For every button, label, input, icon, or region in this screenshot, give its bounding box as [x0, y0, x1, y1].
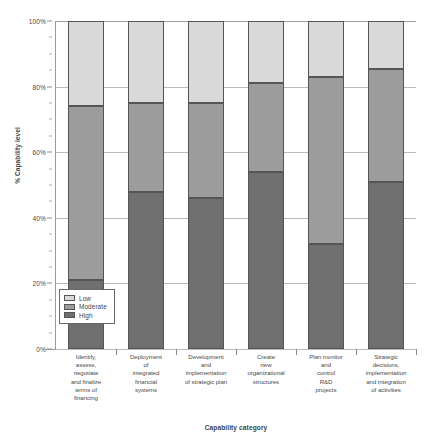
y-tick-minor-50: [49, 185, 52, 186]
x-axis-category-labels: Identify,assess,negotiateand finalizeter…: [56, 353, 416, 423]
y-tick-minor-75: [49, 103, 52, 104]
y-tick-minor-85: [49, 70, 52, 71]
x-category-label-line: financing: [51, 394, 121, 402]
y-tick-minor-95: [49, 37, 52, 38]
x-axis-title: Capability category: [56, 424, 416, 431]
bar-segment-moderate[interactable]: [68, 106, 104, 280]
bar-segment-low[interactable]: [188, 21, 224, 103]
bar-segment-high[interactable]: [308, 244, 344, 349]
y-tick-minor-35: [49, 234, 52, 235]
y-tick-label-40: 40%: [33, 214, 47, 221]
bar-segment-high[interactable]: [188, 198, 224, 349]
bar-column[interactable]: [188, 21, 224, 349]
legend-item[interactable]: High: [64, 312, 107, 319]
y-tick-major-20: [47, 283, 52, 284]
bar-column[interactable]: [308, 21, 344, 349]
legend-label: High: [79, 312, 93, 319]
bar-segment-moderate[interactable]: [248, 83, 284, 172]
y-tick-minor-70: [49, 119, 52, 120]
y-tick-minor-5: [49, 332, 52, 333]
x-category-label-line: systems: [111, 386, 181, 394]
bar-segment-low[interactable]: [68, 21, 104, 106]
y-axis-labels: 0%20%40%60%80%100%: [0, 0, 56, 447]
y-tick-major-100: [47, 21, 52, 22]
y-tick-label-60: 60%: [33, 149, 47, 156]
x-category-label-line: implementation: [351, 369, 421, 377]
y-tick-minor-15: [49, 299, 52, 300]
bar-column[interactable]: [368, 21, 404, 349]
y-tick-minor-25: [49, 267, 52, 268]
y-tick-minor-65: [49, 135, 52, 136]
y-tick-major-80: [47, 86, 52, 87]
bar-segment-low[interactable]: [308, 21, 344, 77]
bar-segment-moderate[interactable]: [128, 103, 164, 192]
bar-segment-moderate[interactable]: [308, 77, 344, 244]
legend: LowModerateHigh: [59, 289, 115, 324]
y-tick-label-0: 0%: [36, 346, 46, 353]
y-tick-label-20: 20%: [33, 280, 47, 287]
legend-swatch-icon: [64, 304, 75, 310]
y-tick-minor-45: [49, 201, 52, 202]
x-category-label-line: decisions,: [351, 361, 421, 369]
legend-swatch-icon: [64, 312, 75, 318]
y-tick-major-60: [47, 152, 52, 153]
y-tick-minor-30: [49, 250, 52, 251]
x-category-label-line: of activities: [351, 386, 421, 394]
y-tick-major-40: [47, 217, 52, 218]
bar-column[interactable]: [248, 21, 284, 349]
bar-segment-high[interactable]: [248, 172, 284, 349]
caption-sliver: [28, 440, 408, 447]
y-tick-minor-55: [49, 168, 52, 169]
legend-item[interactable]: Moderate: [64, 303, 107, 310]
y-tick-minor-10: [49, 316, 52, 317]
y-tick-label-80: 80%: [33, 83, 47, 90]
legend-label: Low: [79, 295, 91, 302]
bar-segment-low[interactable]: [128, 21, 164, 103]
bar-segment-moderate[interactable]: [368, 69, 404, 182]
bar-segment-low[interactable]: [248, 21, 284, 83]
bar-column[interactable]: [128, 21, 164, 349]
x-category-label-line: Strategic: [351, 353, 421, 361]
bar-segment-high[interactable]: [368, 182, 404, 349]
y-tick-minor-90: [49, 53, 52, 54]
bar-segment-moderate[interactable]: [188, 103, 224, 198]
y-tick-label-100: 100%: [29, 18, 46, 25]
x-category-label-line: and integration: [351, 378, 421, 386]
bar-segment-high[interactable]: [128, 192, 164, 349]
legend-label: Moderate: [79, 303, 107, 310]
bar-segment-low[interactable]: [368, 21, 404, 69]
legend-swatch-icon: [64, 295, 75, 301]
stacked-bar-chart: % Capability level 0%20%40%60%80%100% Lo…: [0, 0, 426, 447]
legend-item[interactable]: Low: [64, 295, 107, 302]
x-category-label: Strategicdecisions,implementationand int…: [351, 353, 421, 394]
